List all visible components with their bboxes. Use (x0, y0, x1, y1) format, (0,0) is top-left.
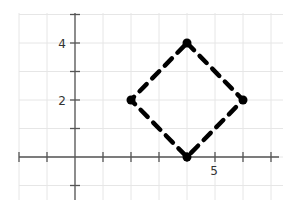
vertex-point (183, 153, 192, 162)
y-tick-label: 2 (58, 94, 66, 108)
y-tick-label: 4 (58, 37, 66, 51)
x-tick-label: 5 (210, 164, 218, 178)
vertex-point (183, 39, 192, 48)
vertex-point (127, 96, 136, 105)
coordinate-plane: 524 (0, 0, 296, 212)
vertex-point (239, 96, 248, 105)
